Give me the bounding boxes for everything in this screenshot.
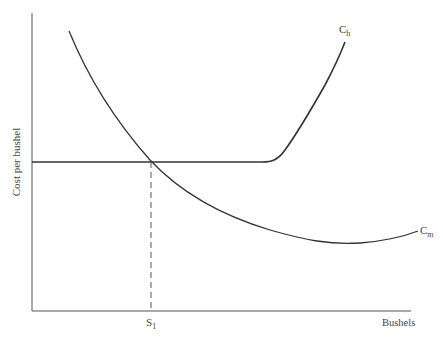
cm-label: Cm	[420, 224, 434, 239]
cm-curve	[69, 31, 418, 243]
cost-chart: Cost per bushel Bushels S1 Ch Cm	[0, 0, 443, 341]
s1-tick-label: S1	[146, 316, 156, 331]
x-axis-label: Bushels	[382, 317, 415, 328]
ch-curve	[32, 42, 345, 162]
y-axis-label: Cost per bushel	[10, 128, 22, 196]
ch-label: Ch	[339, 23, 350, 38]
